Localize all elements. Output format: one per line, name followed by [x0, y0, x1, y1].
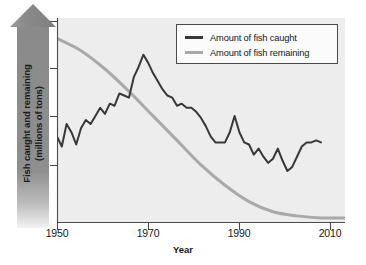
- fish-stocks-line-chart: Fish caught and remaining (millions of t…: [0, 0, 366, 265]
- y-axis-title-line1: Fish caught and remaining: [21, 29, 33, 219]
- y-axis-title-line2: (millions of tons): [32, 29, 44, 219]
- x-tick-label-1950: 1950: [46, 227, 69, 239]
- x-tick-label-1990: 1990: [228, 227, 251, 239]
- x-axis-title: Year: [0, 244, 366, 255]
- chart-legend: Amount of fish caught Amount of fish rem…: [176, 24, 338, 64]
- legend-item-remaining: Amount of fish remaining: [185, 45, 337, 60]
- x-tick-label-1970: 1970: [137, 227, 160, 239]
- x-tick-label-2010: 2010: [319, 227, 342, 239]
- legend-label-remaining: Amount of fish remaining: [210, 48, 309, 58]
- legend-label-caught: Amount of fish caught: [210, 33, 297, 43]
- series-line-remaining: [57, 38, 345, 218]
- y-axis-title: Fish caught and remaining (millions of t…: [21, 29, 44, 219]
- legend-item-caught: Amount of fish caught: [185, 30, 337, 45]
- legend-swatch-caught-icon: [185, 36, 203, 40]
- legend-swatch-remaining-icon: [185, 51, 203, 54]
